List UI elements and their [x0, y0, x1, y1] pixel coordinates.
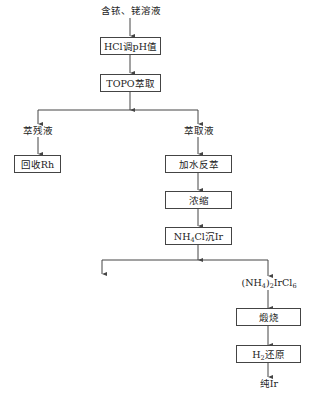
step-h2-reduce: H2还原 — [236, 345, 301, 363]
flowchart-connectors — [0, 0, 315, 400]
step-topo-extraction: TOPO萃取 — [100, 74, 161, 92]
pure-ir-label: 纯Ir — [260, 378, 278, 390]
step-hcl-label: HCl调pH值 — [104, 39, 157, 53]
step-topo-label: TOPO萃取 — [106, 76, 154, 90]
ammonium-hexachloroiridate-label: (NH4)2IrCl6 — [241, 277, 296, 289]
step-recover-rh-label: 回收Rh — [21, 157, 54, 171]
start-solution-label: 含铱、铑溶液 — [101, 5, 161, 17]
raffinate-label: 萃残液 — [23, 125, 53, 137]
step-water-strip: 加水反萃 — [165, 155, 232, 173]
step-h2-reduce-label: H2还原 — [252, 347, 284, 361]
step-concentrate: 浓缩 — [165, 191, 232, 209]
step-precip-label: NH4Cl沉Ir — [174, 229, 223, 243]
step-calcine-label: 煅烧 — [259, 310, 279, 324]
step-water-strip-label: 加水反萃 — [179, 157, 219, 171]
step-hcl-adjust-ph: HCl调pH值 — [100, 37, 161, 55]
step-calcine: 煅烧 — [236, 308, 301, 326]
extract-label: 萃取液 — [184, 125, 214, 137]
step-nh4cl-precipitate: NH4Cl沉Ir — [165, 227, 232, 245]
step-recover-rh: 回收Rh — [14, 155, 61, 173]
step-concentrate-label: 浓缩 — [189, 193, 209, 207]
